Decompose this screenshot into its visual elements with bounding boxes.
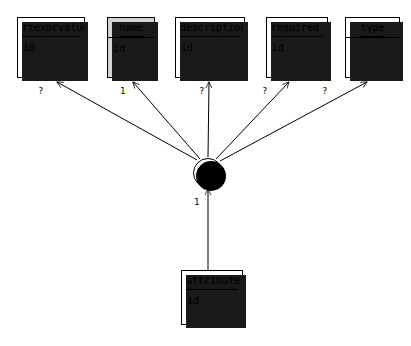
and-operator-label: AND — [200, 169, 215, 178]
node-title-type: type — [346, 18, 399, 37]
edge-and-to-type — [220, 82, 367, 161]
node-field-required-id: id — [267, 37, 327, 53]
edge-label-required: ? — [262, 86, 267, 96]
node-field-rtexprvalue-id: id — [18, 37, 84, 53]
node-title-attribute: attribute — [182, 271, 242, 290]
node-description[interactable]: description id — [175, 17, 245, 78]
node-type[interactable]: type — [345, 17, 400, 78]
edge-and-to-rtexprvalue — [57, 82, 197, 160]
node-field-name-id: id — [108, 38, 154, 54]
node-name[interactable]: name id — [107, 17, 155, 78]
node-required[interactable]: required id — [266, 17, 328, 78]
node-attribute[interactable]: attribute id — [181, 270, 243, 325]
edge-label-type: ? — [322, 86, 327, 96]
node-rtexprvalue[interactable]: rtexprvalue id — [17, 17, 85, 78]
diagram-canvas: rtexprvalue id name id description id re… — [0, 0, 411, 346]
edge-label-description: ? — [199, 86, 204, 96]
node-field-description-id: id — [176, 37, 244, 53]
edge-and-to-required — [216, 82, 289, 159]
node-title-name: name — [108, 18, 154, 37]
edge-and-to-description — [208, 82, 209, 157]
and-operator-node[interactable]: AND — [193, 158, 223, 188]
node-title-description: description — [176, 18, 244, 37]
node-field-attribute-id: id — [182, 290, 242, 306]
edge-label-attribute: 1 — [194, 197, 199, 207]
node-title-rtexprvalue: rtexprvalue — [18, 18, 84, 37]
edge-and-to-name — [133, 82, 200, 159]
node-body-type-empty — [346, 38, 399, 43]
edge-label-name: 1 — [120, 86, 125, 96]
edge-label-rtexprvalue: ? — [38, 86, 43, 96]
node-title-required: required — [267, 18, 327, 37]
